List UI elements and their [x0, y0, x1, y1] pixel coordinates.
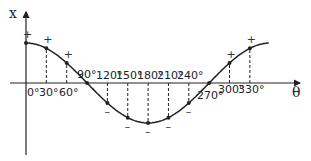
angle-label-240: 240°	[177, 69, 204, 82]
angle-label-60: 60°	[59, 86, 79, 99]
sign-150: –	[125, 120, 131, 133]
point-300	[228, 61, 232, 65]
sign-330: +	[247, 33, 256, 46]
point-30	[44, 46, 48, 50]
cosine-diagram: x θ +++–––––++ 0° 30° 60° 90° 120° 150° …	[0, 0, 311, 161]
sign-180: –	[145, 125, 151, 138]
sign-30: +	[43, 33, 52, 46]
sign-240: –	[186, 105, 192, 118]
sign-120: –	[104, 105, 110, 118]
point-90	[85, 81, 89, 85]
point-270	[207, 81, 211, 85]
angle-label-330: 330°	[238, 83, 265, 96]
y-axis-label: x	[9, 5, 17, 21]
sign-300: +	[227, 48, 236, 61]
sign-210: –	[165, 120, 171, 133]
sign-60: +	[64, 48, 73, 61]
angle-label-90: 90°	[77, 68, 97, 81]
point-0	[24, 41, 28, 45]
point-60	[65, 61, 69, 65]
point-330	[248, 46, 252, 50]
angle-label-30: 30°	[39, 86, 59, 99]
angle-label-0: 0°	[27, 86, 40, 99]
x-axis-label: θ	[292, 84, 300, 100]
sign-0: +	[23, 28, 32, 41]
